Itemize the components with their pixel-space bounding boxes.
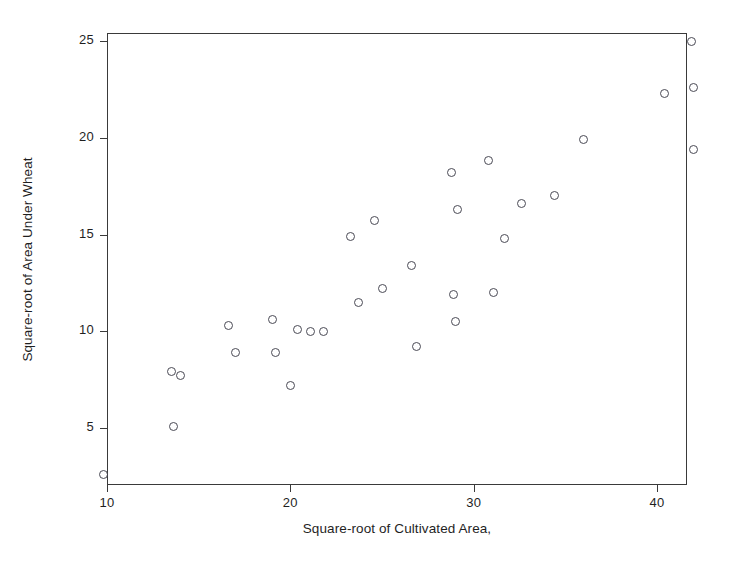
y-tick-label: 20 bbox=[54, 129, 94, 144]
y-tick-mark bbox=[100, 41, 107, 42]
y-axis-label-text: Square-root of Area Under Wheat bbox=[20, 157, 35, 361]
y-tick-label: 5 bbox=[54, 419, 94, 434]
y-axis-label: Square-root of Area Under Wheat bbox=[16, 33, 38, 485]
x-tick-mark bbox=[290, 485, 291, 492]
x-tick-mark bbox=[474, 485, 475, 492]
y-tick-mark bbox=[100, 235, 107, 236]
y-axis-ticks: 510152025 bbox=[52, 0, 94, 567]
data-point bbox=[689, 83, 698, 92]
x-tick-label: 40 bbox=[637, 495, 677, 510]
data-point bbox=[689, 145, 698, 154]
x-tick-mark bbox=[657, 485, 658, 492]
y-tick-mark bbox=[100, 331, 107, 332]
x-tick-label: 20 bbox=[270, 495, 310, 510]
x-tick-mark bbox=[107, 485, 108, 492]
x-tick-label: 30 bbox=[454, 495, 494, 510]
y-tick-label: 25 bbox=[54, 32, 94, 47]
y-tick-label: 10 bbox=[54, 322, 94, 337]
x-axis-label: Square-root of Cultivated Area, bbox=[107, 521, 687, 536]
y-tick-label: 15 bbox=[54, 226, 94, 241]
data-point bbox=[687, 37, 696, 46]
plot-area bbox=[107, 33, 687, 485]
scatter-plot-figure: 10203040 510152025 Square-root of Cultiv… bbox=[0, 0, 740, 567]
y-tick-mark bbox=[100, 428, 107, 429]
y-tick-mark bbox=[100, 138, 107, 139]
